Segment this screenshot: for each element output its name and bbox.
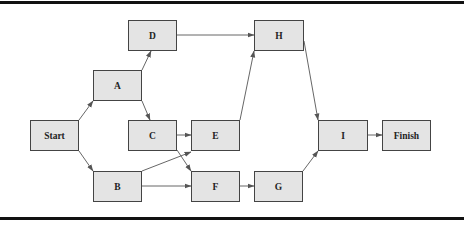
edge-start-b <box>79 151 93 171</box>
edge-g-i <box>303 151 318 171</box>
edge-a-d <box>142 51 151 70</box>
edge-a-c <box>142 101 150 120</box>
edge-e-h <box>240 51 254 120</box>
node-a: A <box>93 70 142 101</box>
node-e: E <box>191 120 240 151</box>
node-f: F <box>191 171 240 202</box>
node-g: G <box>254 171 303 202</box>
edge-b-e <box>142 152 191 171</box>
edge-start-a <box>79 101 93 120</box>
node-finish: Finish <box>382 120 431 151</box>
node-c: C <box>128 120 177 151</box>
edge-h-i <box>304 41 318 120</box>
node-i: I <box>318 120 368 151</box>
node-h: H <box>254 20 304 51</box>
node-b: B <box>93 171 142 202</box>
node-d: D <box>128 20 177 51</box>
node-start: Start <box>30 120 79 151</box>
